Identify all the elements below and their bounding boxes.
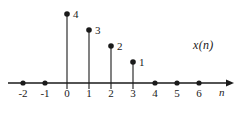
- sample-point-n5: [174, 80, 179, 85]
- x-axis-label: n: [219, 87, 225, 98]
- tick-label-n5: 5: [174, 88, 180, 99]
- tick-label-n1: 1: [86, 88, 92, 99]
- plot-canvas: [0, 0, 243, 117]
- tick-label-n4: 4: [152, 88, 158, 99]
- stem-plot-figure: 4 3 2 1 -2 -1 0 1 2 3 4 5 6 n x(n): [0, 0, 243, 117]
- sample-point-n-1: [42, 80, 47, 85]
- value-label-n0: 4: [73, 9, 79, 20]
- value-label-n1: 3: [95, 25, 101, 36]
- sample-point-n6: [196, 80, 201, 85]
- tick-label-n-2: -2: [18, 88, 27, 99]
- sample-point-n4: [152, 80, 157, 85]
- sample-point-n2: [108, 43, 114, 49]
- tick-label-n6: 6: [196, 88, 202, 99]
- sample-point-n-2: [20, 80, 25, 85]
- tick-label-n-1: -1: [40, 88, 49, 99]
- sample-point-n1: [86, 27, 92, 33]
- value-label-n3: 1: [139, 57, 145, 68]
- series-label-xn: x(n): [193, 39, 214, 51]
- tick-label-n3: 3: [130, 88, 136, 99]
- x-axis-arrowhead: [226, 80, 234, 87]
- sample-point-n3: [130, 59, 136, 65]
- tick-label-n2: 2: [108, 88, 114, 99]
- value-label-n2: 2: [117, 41, 123, 52]
- sample-point-n0: [64, 11, 70, 17]
- tick-label-n0: 0: [64, 88, 70, 99]
